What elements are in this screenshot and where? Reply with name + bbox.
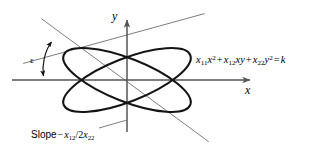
equation-term1-sub: 11 <box>201 59 208 67</box>
quadratic-form-equation: x11x2+x12xy+x22y2=k <box>196 55 285 67</box>
equation-plus-2: + <box>245 54 253 65</box>
equation-term3-sub: 22 <box>257 59 264 67</box>
epsilon-angle-group <box>43 42 51 76</box>
figure-container: y x ε x11x2+x12xy+x22y2=k Slope−x12/2x22 <box>0 0 317 155</box>
equation-rhs: k <box>281 54 286 65</box>
axes-group <box>12 20 250 132</box>
epsilon-arc-path <box>43 42 51 76</box>
equation-term2-factor: xy <box>236 54 245 65</box>
equation-term2-sub: 12 <box>228 59 235 67</box>
slope-caption: Slope−x12/2x22 <box>31 130 95 142</box>
slope-caption-word: Slope <box>31 129 57 140</box>
epsilon-angle-label: ε <box>30 56 34 65</box>
equation-equals: = <box>273 54 281 65</box>
slope-leader-group <box>99 120 127 128</box>
equation-plus-1: + <box>216 54 224 65</box>
guide-lines-group <box>23 7 225 142</box>
slope-denominator-sub: 22 <box>88 134 95 141</box>
y-axis-label: y <box>112 10 117 22</box>
slope-leader-line <box>99 120 127 128</box>
x-axis-label: x <box>245 84 250 96</box>
